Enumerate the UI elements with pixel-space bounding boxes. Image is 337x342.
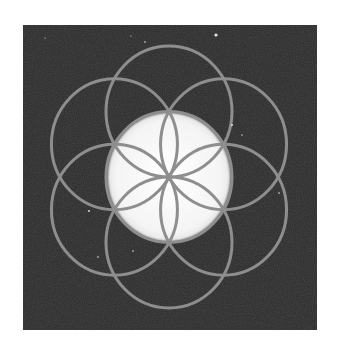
speck	[132, 250, 134, 252]
speck	[130, 35, 131, 36]
speck	[97, 256, 99, 258]
speck	[144, 41, 146, 43]
seed-of-life-figure	[0, 0, 337, 342]
figure-canvas	[0, 0, 337, 342]
speck	[88, 210, 90, 212]
speck	[231, 124, 233, 126]
speck	[44, 37, 45, 38]
speck	[214, 33, 217, 36]
speck	[241, 134, 242, 135]
speck	[278, 192, 280, 194]
